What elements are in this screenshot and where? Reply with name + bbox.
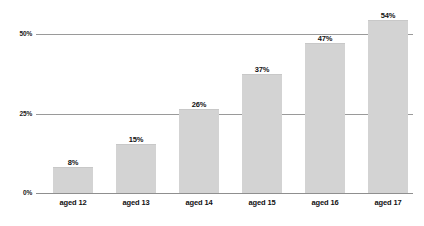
x-axis-label-aged-15: aged 15 — [229, 199, 295, 207]
y-axis-label-25pct: 25% — [2, 111, 32, 118]
bar-value-label: 47% — [305, 35, 345, 43]
y-axis-label-50pct: 50% — [2, 31, 32, 38]
bar-chart: 0%25%50% 8%15%26%37%47%54% aged 12aged 1… — [0, 0, 424, 226]
x-axis-label-aged-17: aged 17 — [355, 199, 421, 207]
bar-value-label: 54% — [368, 12, 408, 20]
x-axis-label-aged-14: aged 14 — [166, 199, 232, 207]
x-axis-label-aged-13: aged 13 — [103, 199, 169, 207]
bar-value-label: 8% — [53, 159, 93, 167]
bar[interactable]: 37% — [242, 74, 282, 193]
plot-area: 8%15%26%37%47%54% — [36, 0, 413, 194]
bar-value-label: 26% — [179, 101, 219, 109]
x-axis-label-aged-12: aged 12 — [40, 199, 106, 207]
bar-value-label: 15% — [116, 136, 156, 144]
bar[interactable]: 54% — [368, 20, 408, 193]
x-axis-tick-labels: aged 12aged 13aged 14aged 15aged 16aged … — [36, 199, 413, 215]
bar[interactable]: 15% — [116, 144, 156, 193]
y-axis-label-0pct: 0% — [2, 190, 32, 197]
bar[interactable]: 26% — [179, 109, 219, 193]
bar-value-label: 37% — [242, 66, 282, 74]
x-axis-label-aged-16: aged 16 — [292, 199, 358, 207]
bar[interactable]: 47% — [305, 43, 345, 193]
bar[interactable]: 8% — [53, 167, 93, 193]
